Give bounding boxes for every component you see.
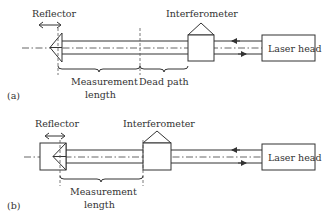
reflector-label-a: Reflector bbox=[32, 8, 77, 19]
double-arrow-icon bbox=[45, 133, 65, 139]
measurement-brace-b bbox=[60, 176, 143, 182]
dead-path-label: Dead path bbox=[139, 76, 189, 87]
reflector-prism-icon bbox=[40, 143, 66, 170]
panel-b: Reflector Interferometer Lase bbox=[7, 118, 322, 211]
laser-head-label-b: Laser head bbox=[268, 152, 322, 163]
measurement-length-label-a-line1: Measurement bbox=[71, 76, 138, 87]
double-arrow-icon bbox=[39, 22, 61, 28]
reflector-label-b: Reflector bbox=[35, 118, 80, 129]
panel-a-tag: (a) bbox=[7, 90, 20, 101]
laser-head-label-a: Laser head bbox=[268, 43, 322, 54]
interferometer-label-a: Interferometer bbox=[166, 8, 238, 19]
measurement-length-label-b-line1: Measurement bbox=[70, 186, 137, 197]
measurement-brace-a bbox=[58, 66, 140, 72]
measurement-length-label-a-line2: length bbox=[85, 89, 116, 100]
laser-interferometer-diagram: Reflector Interferometer bbox=[0, 0, 326, 222]
panel-a: Reflector Interferometer bbox=[7, 8, 322, 101]
interferometer-icon-b bbox=[143, 131, 171, 170]
interferometer-icon-a bbox=[188, 23, 214, 61]
measurement-length-label-b-line2: length bbox=[84, 199, 115, 210]
interferometer-label-b: Interferometer bbox=[123, 118, 195, 129]
dead-path-brace bbox=[140, 66, 188, 72]
panel-b-tag: (b) bbox=[7, 200, 21, 211]
reflector-prism-icon bbox=[50, 33, 62, 62]
